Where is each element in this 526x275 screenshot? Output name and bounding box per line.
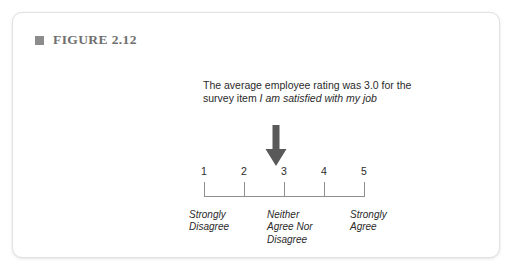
scale-tick-2 — [244, 182, 245, 197]
scale-anchor-low: Strongly Disagree — [189, 209, 259, 234]
scale-number-4: 4 — [312, 165, 336, 177]
scale-anchor-mid: Neither Agree Nor Disagree — [267, 209, 339, 246]
arrow-down-icon — [265, 125, 287, 166]
figure-card: FIGURE 2.12 The average employee rating … — [12, 12, 500, 258]
scale-tick-3 — [284, 182, 285, 197]
scale-anchor-high: Strongly Agree — [350, 209, 420, 234]
caption-survey-item-part-2: with my job — [324, 92, 377, 104]
scale-number-2: 2 — [232, 165, 256, 177]
figure-header: FIGURE 2.12 — [35, 32, 137, 48]
scale-number-3: 3 — [272, 165, 296, 177]
scale-tick-5 — [364, 182, 365, 197]
scale-tick-4 — [324, 182, 325, 197]
figure-caption: The average employee rating was 3.0 for … — [203, 79, 418, 105]
scale-tick-1 — [204, 182, 205, 197]
square-bullet-icon — [35, 36, 44, 45]
scale-baseline — [204, 196, 364, 197]
caption-line-1: The average employee rating was — [203, 79, 361, 91]
figure-label: FIGURE 2.12 — [53, 32, 137, 48]
rating-scale: 1 2 3 4 5 — [204, 165, 364, 200]
scale-number-1: 1 — [192, 165, 216, 177]
caption-survey-item-part-1: I am satisfied — [260, 92, 322, 104]
scale-number-5: 5 — [352, 165, 376, 177]
